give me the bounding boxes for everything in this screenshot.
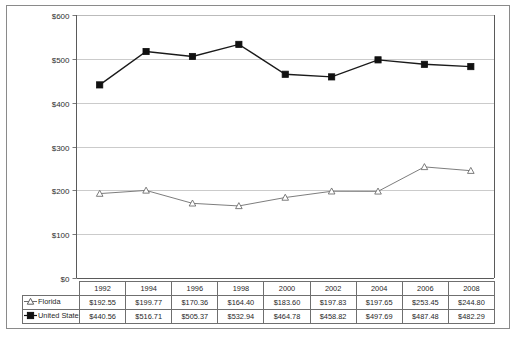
table-cell: $482.29	[448, 310, 494, 324]
table-cell: $505.37	[172, 310, 218, 324]
marker-united-states	[143, 48, 149, 54]
marker-united-states	[421, 61, 427, 67]
table-header-row: 199219941996199820002002200420062008	[23, 282, 495, 296]
marker-united-states	[375, 57, 381, 63]
marker-united-states	[282, 71, 288, 77]
legend-label: United States	[38, 312, 80, 319]
table-header-cell: 2000	[264, 282, 310, 296]
legend-label: Florida	[38, 298, 61, 305]
table-body: Florida$192.55$199.77$170.36$164.40$183.…	[23, 296, 495, 324]
marker-united-states	[236, 41, 242, 47]
table-row: Florida$192.55$199.77$170.36$164.40$183.…	[23, 296, 495, 310]
table-cell: $440.56	[80, 310, 126, 324]
table-cell: $192.55	[80, 296, 126, 310]
y-axis-labels: $0$100$200$300$400$500$600	[52, 12, 70, 284]
table-header-cell: 1994	[126, 282, 172, 296]
table-header-cell: 2006	[402, 282, 448, 296]
table-header-cell: 2008	[448, 282, 494, 296]
y-tick-label: $400	[52, 100, 70, 109]
y-tick-label: $500	[52, 56, 70, 65]
table-cell: $532.94	[218, 310, 264, 324]
marker-florida	[143, 187, 150, 193]
table-cell: $253.45	[402, 296, 448, 310]
table-header-cell: 1998	[218, 282, 264, 296]
marker-united-states	[189, 53, 195, 59]
table-cell: $458.82	[310, 310, 356, 324]
y-tick-label: $100	[52, 231, 70, 240]
open-triangle-legend-icon	[24, 297, 37, 306]
gridlines	[77, 15, 495, 279]
table-cell: $487.48	[402, 310, 448, 324]
table-cell: $516.71	[126, 310, 172, 324]
table-cell: $244.80	[448, 296, 494, 310]
marker-united-states	[468, 64, 474, 70]
table-cell: $199.77	[126, 296, 172, 310]
marker-united-states	[97, 82, 103, 88]
marker-florida	[421, 164, 428, 170]
table-cell: $464.78	[264, 310, 310, 324]
table-row-label-united-states: United States	[23, 310, 80, 324]
y-tick-label: $600	[52, 12, 70, 21]
table-cell: $497.69	[356, 310, 402, 324]
table-corner-cell	[23, 282, 80, 296]
table-cell: $197.65	[356, 296, 402, 310]
table-cell: $170.36	[172, 296, 218, 310]
table-row-label-florida: Florida	[23, 296, 80, 310]
y-tick-label: $200	[52, 187, 70, 196]
table-cell: $164.40	[218, 296, 264, 310]
table-cell: $183.60	[264, 296, 310, 310]
table-header-cell: 1996	[172, 282, 218, 296]
series-line-united-states	[100, 44, 471, 85]
table-header-cell: 2004	[356, 282, 402, 296]
series-polylines	[100, 44, 471, 206]
y-tick-label: $300	[52, 144, 70, 153]
table-header-cell: 1992	[80, 282, 126, 296]
filled-square-legend-icon	[24, 311, 37, 320]
series-markers	[96, 41, 474, 208]
table-header-cell: 2002	[310, 282, 356, 296]
data-table: 199219941996199820002002200420062008 Flo…	[22, 281, 495, 324]
y-axis-tickmarks	[73, 16, 77, 279]
marker-united-states	[329, 74, 335, 80]
table-row: United States$440.56$516.71$505.37$532.9…	[23, 310, 495, 324]
table-cell: $197.83	[310, 296, 356, 310]
